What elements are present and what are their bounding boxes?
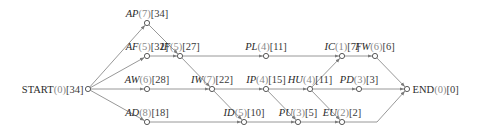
network-canvas: START(0)[34]AP(7)[34]AF(5)[32]AW(6)[28]A… bbox=[0, 0, 480, 135]
activity-name: IP bbox=[245, 74, 256, 85]
node-start bbox=[85, 86, 90, 91]
edge-fw-to-end bbox=[377, 58, 405, 87]
activity-value: [11] bbox=[315, 74, 332, 85]
activity-network-diagram: START(0)[34]AP(7)[34]AF(5)[32]AW(6)[28]A… bbox=[0, 0, 480, 135]
node-ap bbox=[144, 20, 149, 25]
activity-value: [34] bbox=[66, 84, 84, 95]
node-ip bbox=[263, 86, 268, 91]
activity-value: [27] bbox=[182, 41, 200, 52]
activity-duration: (7) bbox=[203, 74, 216, 86]
node-end bbox=[404, 86, 409, 91]
activity-value: [3] bbox=[366, 74, 378, 85]
activity-value: [22] bbox=[216, 74, 234, 85]
node-label-hu: HU(4)[11] bbox=[287, 74, 333, 86]
node-label-pd: PD(3)[3] bbox=[339, 74, 379, 86]
activity-duration: (5) bbox=[139, 41, 152, 53]
activity-name: PD bbox=[339, 74, 354, 85]
node-label-eu: EU(2)[2] bbox=[322, 107, 362, 119]
node-fw bbox=[372, 53, 377, 58]
activity-value: [10] bbox=[247, 107, 265, 118]
activity-value: [34] bbox=[151, 8, 169, 19]
activity-duration: (6) bbox=[370, 41, 383, 53]
activity-value: [5] bbox=[305, 107, 317, 118]
activity-duration: (4) bbox=[257, 41, 270, 53]
node-label-ic: IC(1)[7] bbox=[324, 41, 360, 53]
activity-duration: (0) bbox=[54, 84, 67, 96]
activity-value: [11] bbox=[270, 41, 287, 52]
node-label-iw: IW(7)[22] bbox=[190, 74, 233, 86]
node-pu bbox=[295, 119, 300, 124]
node-ad bbox=[144, 119, 149, 124]
activity-value: [15] bbox=[268, 74, 286, 85]
activity-value: [18] bbox=[151, 107, 169, 118]
labels-layer: START(0)[34]AP(7)[34]AF(5)[32]AW(6)[28]A… bbox=[22, 8, 459, 119]
node-hu bbox=[307, 86, 312, 91]
activity-name: HU bbox=[287, 74, 305, 85]
activity-duration: (8) bbox=[139, 107, 152, 119]
node-aw bbox=[144, 86, 149, 91]
node-af bbox=[144, 53, 149, 58]
activity-name: IF bbox=[159, 41, 170, 52]
node-label-ad: AD(8)[18] bbox=[124, 107, 169, 119]
node-id bbox=[241, 119, 246, 124]
node-ic bbox=[339, 53, 344, 58]
node-label-end: END(0)[0] bbox=[413, 84, 459, 96]
activity-name: AD bbox=[124, 107, 139, 118]
activity-name: EU bbox=[322, 107, 338, 118]
node-label-if: IF(5)[27] bbox=[159, 41, 200, 53]
activity-name: AW bbox=[124, 74, 141, 85]
node-iw bbox=[209, 86, 214, 91]
node-label-pu: PU(3)[5] bbox=[278, 107, 318, 119]
activity-name: END bbox=[413, 84, 435, 95]
node-if bbox=[177, 53, 182, 58]
activity-duration: (5) bbox=[235, 107, 248, 119]
node-label-pl: PL(4)[11] bbox=[244, 41, 287, 53]
activity-value: [0] bbox=[446, 84, 458, 95]
activity-duration: (4) bbox=[303, 74, 316, 86]
activity-value: [28] bbox=[152, 74, 170, 85]
activity-duration: (3) bbox=[293, 107, 306, 119]
node-eu bbox=[339, 119, 344, 124]
node-pl bbox=[263, 53, 268, 58]
node-pd bbox=[356, 86, 361, 91]
activity-name: AP bbox=[125, 8, 139, 19]
activity-name: START bbox=[22, 84, 54, 95]
activity-duration: (7) bbox=[139, 8, 152, 20]
activity-duration: (1) bbox=[335, 41, 348, 53]
node-label-id: ID(5)[10] bbox=[223, 107, 265, 119]
node-label-fw: FW(6)[6] bbox=[354, 41, 395, 53]
activity-duration: (2) bbox=[337, 107, 350, 119]
activity-duration: (3) bbox=[354, 74, 367, 86]
activity-duration: (6) bbox=[140, 74, 153, 86]
activity-duration: (5) bbox=[170, 41, 183, 53]
activity-value: [6] bbox=[383, 41, 395, 52]
activity-duration: (4) bbox=[256, 74, 269, 86]
activity-name: PU bbox=[278, 107, 294, 118]
node-label-aw: AW(6)[28] bbox=[124, 74, 170, 86]
node-label-start: START(0)[34] bbox=[22, 84, 84, 96]
activity-name: FW bbox=[354, 41, 371, 52]
activity-value: [2] bbox=[349, 107, 361, 118]
activity-name: AF bbox=[125, 41, 139, 52]
node-label-ap: AP(7)[34] bbox=[125, 8, 169, 20]
activity-duration: (0) bbox=[434, 84, 447, 96]
node-label-ip: IP(4)[15] bbox=[245, 74, 286, 86]
activity-name: ID bbox=[223, 107, 235, 118]
activity-name: PL bbox=[244, 41, 257, 52]
